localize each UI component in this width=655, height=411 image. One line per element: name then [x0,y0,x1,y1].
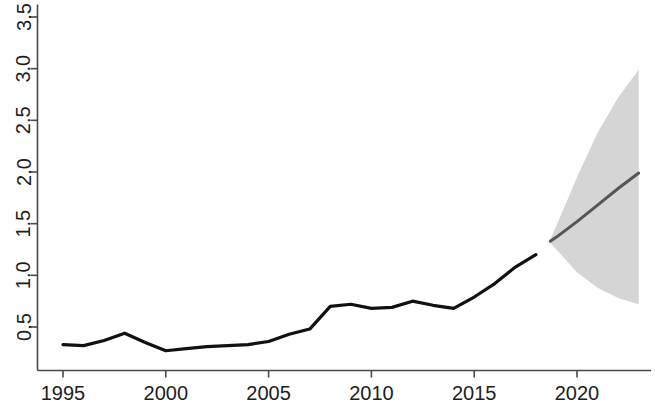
y-tick-label: 3.0 [13,55,35,83]
observed-series-line [63,255,536,351]
y-tick-label: 0.5 [13,313,35,341]
x-tick-label: 2005 [246,382,291,404]
forecast-confidence-band [550,70,638,305]
axes-group [31,5,652,378]
chart-svg: 199520002005201020152020 0.51.01.52.02.5… [0,0,655,411]
y-tick-label: 2.0 [13,158,35,186]
forecast-chart: 199520002005201020152020 0.51.01.52.02.5… [0,0,655,411]
y-axis-tick-labels: 0.51.01.52.02.53.03.5 [13,3,35,341]
data-series-group [63,173,639,351]
forecast-uncertainty-band [550,70,638,305]
x-axis-tick-labels: 199520002005201020152020 [41,382,600,404]
x-tick-label: 1995 [41,382,86,404]
y-tick-label: 3.5 [13,3,35,31]
x-tick-label: 2015 [452,382,497,404]
x-tick-label: 2010 [349,382,394,404]
y-tick-label: 1.0 [13,261,35,289]
x-tick-label: 2000 [144,382,189,404]
x-tick-label: 2020 [555,382,600,404]
y-tick-label: 2.5 [13,106,35,134]
y-tick-label: 1.5 [13,210,35,238]
